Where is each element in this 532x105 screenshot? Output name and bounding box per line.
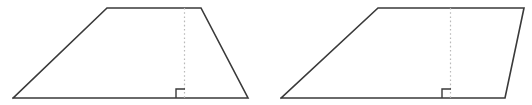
figure-canvas-container — [0, 0, 532, 105]
canvas-background — [0, 0, 532, 105]
geometry-figures-svg — [0, 0, 532, 105]
